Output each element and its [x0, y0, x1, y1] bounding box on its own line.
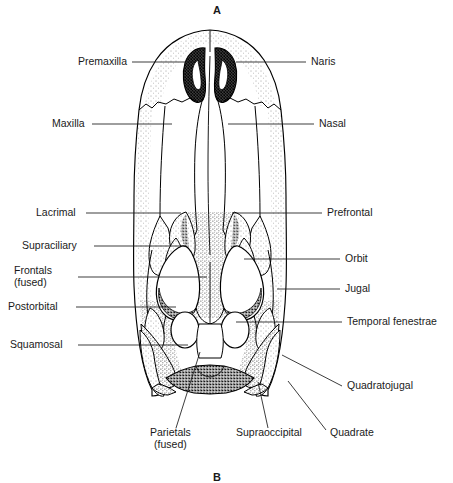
leader-quadrate	[288, 381, 326, 430]
label-frontals-line2: (fused)	[14, 277, 52, 289]
label-parietals: Parietals (fused)	[150, 427, 191, 450]
temporal-fenestra-right	[221, 312, 249, 348]
label-nasal: Nasal	[319, 118, 346, 130]
label-jugal: Jugal	[345, 283, 370, 295]
label-frontals-line1: Frontals	[14, 264, 52, 276]
label-supraoccipital: Supraoccipital	[236, 427, 302, 439]
label-quadratojugal: Quadratojugal	[347, 380, 413, 392]
label-orbit: Orbit	[345, 253, 368, 265]
label-supraciliary: Supraciliary	[22, 240, 77, 252]
label-parietals-line1: Parietals	[150, 426, 191, 438]
leader-quadratojugal	[282, 355, 342, 386]
label-parietals-line2: (fused)	[150, 439, 191, 451]
temporal-fenestra-left	[171, 312, 199, 348]
label-squamosal: Squamosal	[10, 339, 63, 351]
parietal-plate	[197, 324, 224, 358]
label-quadrate: Quadrate	[330, 427, 374, 439]
label-naris: Naris	[311, 56, 336, 68]
label-temporal-fenestrae: Temporal fenestrae	[347, 316, 437, 328]
label-lacrimal: Lacrimal	[36, 207, 76, 219]
label-postorbital: Postorbital	[8, 301, 58, 313]
anatomical-figure: A B	[0, 0, 453, 483]
label-maxilla: Maxilla	[52, 118, 85, 130]
label-premaxilla: Premaxilla	[78, 56, 127, 68]
label-frontals: Frontals (fused)	[14, 265, 52, 288]
label-prefrontal: Prefrontal	[327, 207, 373, 219]
